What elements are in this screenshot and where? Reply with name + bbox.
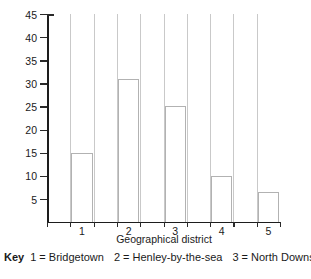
y-axis-tick-label: 5: [31, 194, 37, 205]
key-heading: Key: [4, 251, 24, 263]
bar: [165, 106, 186, 222]
bar-chart-figure: 5101520253035404512345 Number of babies …: [0, 0, 311, 279]
x-axis-tick-mark: [140, 222, 141, 227]
x-axis-division-line: [233, 14, 234, 222]
x-axis-division-line: [140, 14, 141, 222]
y-axis-tick-mark: 35: [40, 60, 47, 61]
bar: [118, 79, 139, 222]
x-axis-title: Geographical district: [47, 234, 281, 246]
x-axis-tick-mark: [233, 222, 234, 227]
y-axis-tick-label: 35: [25, 56, 37, 67]
bar: [71, 153, 92, 222]
y-axis-tick-label: 40: [25, 33, 37, 44]
x-axis-tick-mark: [210, 222, 211, 227]
x-axis-division-line: [257, 14, 258, 222]
y-axis-tick-mark: 20: [40, 130, 47, 131]
y-axis-tick-mark: 45: [40, 14, 47, 15]
x-axis-tick-mark: [47, 222, 48, 227]
x-axis-tick-mark: [187, 222, 188, 227]
y-axis-tick-mark: 30: [40, 83, 47, 84]
x-axis-tick-mark: [280, 222, 281, 227]
plot-area: 5101520253035404512345: [47, 14, 280, 222]
x-axis-division-line: [94, 14, 95, 222]
y-axis-tick-label: 10: [25, 171, 37, 182]
y-axis-tick-mark: 25: [40, 106, 47, 107]
key-entry-1: 1 = Bridgetown: [30, 251, 104, 263]
y-axis-tick-mark: 15: [40, 153, 47, 154]
x-axis-division-line: [187, 14, 188, 222]
key-entry-3: 3 = North Downs: [232, 251, 311, 263]
x-axis-tick-mark: [70, 222, 71, 227]
y-axis-tick-mark: 5: [40, 199, 47, 200]
chart-key: Key1 = Bridgetown2 = Henley-by-the-sea3 …: [4, 251, 307, 264]
x-axis-tick-mark: [94, 222, 95, 227]
y-axis-tick-label: 25: [25, 102, 37, 113]
y-axis-tick-mark: 40: [40, 37, 47, 38]
bar: [211, 176, 232, 222]
y-axis-tick-mark: 10: [40, 176, 47, 177]
y-axis-tick-label: 20: [25, 125, 37, 136]
y-axis-tick-label: 15: [25, 148, 37, 159]
key-entry-2: 2 = Henley-by-the-sea: [114, 251, 223, 263]
y-axis-tick-label: 45: [25, 9, 37, 20]
x-axis-tick-mark: [164, 222, 165, 227]
x-axis-tick-mark: [257, 222, 258, 227]
x-axis-tick-mark: [117, 222, 118, 227]
y-axis-tick-label: 30: [25, 79, 37, 90]
bar: [258, 192, 279, 222]
